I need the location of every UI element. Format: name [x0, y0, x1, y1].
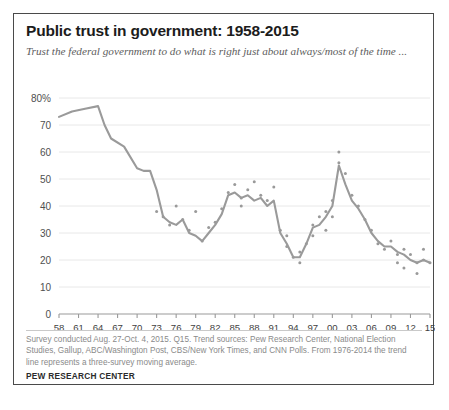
data-point [207, 226, 210, 229]
data-point [324, 210, 327, 213]
data-point [318, 215, 321, 218]
card-inner: Public trust in government: 1958-2015 Tr… [14, 14, 433, 384]
data-point [155, 210, 158, 213]
data-point [253, 180, 256, 183]
y-axis-tick-label: 20 [40, 255, 52, 266]
data-point [337, 161, 340, 164]
gridlines-group [59, 98, 430, 287]
y-axis-tick-label: 80% [31, 93, 51, 104]
infographic-card: Public trust in government: 1958-2015 Tr… [13, 13, 434, 385]
data-point [240, 205, 243, 208]
data-point [175, 205, 178, 208]
footer-divider [26, 330, 422, 331]
data-point [259, 194, 262, 197]
data-point [396, 261, 399, 264]
data-point [311, 234, 314, 237]
y-axis-tick-label: 0 [45, 309, 51, 320]
y-axis-tick-label: 70 [40, 120, 52, 131]
data-point [227, 191, 230, 194]
data-point [311, 223, 314, 226]
data-point [324, 229, 327, 232]
brand-label: PEW RESEARCH CENTER [26, 371, 135, 381]
trend-line-path [59, 106, 430, 263]
data-point [422, 248, 425, 251]
data-point [389, 240, 392, 243]
data-point [272, 186, 275, 189]
data-point [396, 253, 399, 256]
data-point [409, 253, 412, 256]
data-point [266, 199, 269, 202]
x-axis-group [59, 314, 430, 318]
trust-line-chart: 01020304050607080% 586164677073767982858… [14, 86, 435, 261]
data-point [383, 248, 386, 251]
y-axis-labels-group: 01020304050607080% [31, 93, 51, 320]
y-axis-tick-label: 10 [40, 282, 52, 293]
y-axis-tick-label: 40 [40, 201, 52, 212]
page-title: Public trust in government: 1958-2015 [26, 22, 299, 40]
data-point [344, 172, 347, 175]
y-axis-tick-label: 30 [40, 228, 52, 239]
x-axis-tick-label: 15 [425, 322, 435, 331]
source-note: Survey conducted Aug. 27-Oct. 4, 2015. Q… [26, 334, 420, 368]
data-point [233, 183, 236, 186]
data-point [298, 261, 301, 264]
chart-subtitle: Trust the federal government to do what … [26, 44, 416, 59]
data-point [246, 188, 249, 191]
chart-svg: 01020304050607080% 586164677073767982858… [14, 86, 435, 331]
data-point [402, 267, 405, 270]
data-point [194, 210, 197, 213]
data-point [331, 215, 334, 218]
data-point [285, 234, 288, 237]
data-point [415, 272, 418, 275]
data-point [337, 151, 340, 154]
data-point [168, 223, 171, 226]
y-axis-tick-label: 60 [40, 147, 52, 158]
y-axis-tick-label: 50 [40, 174, 52, 185]
data-point [402, 248, 405, 251]
